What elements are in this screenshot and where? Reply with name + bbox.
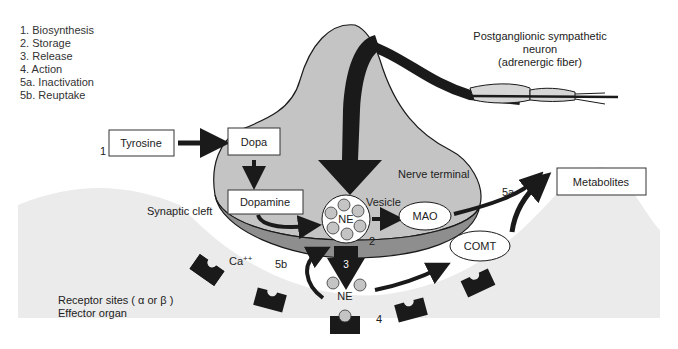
step-5b-label: 5b [275, 258, 287, 270]
step-4-label: 4 [376, 313, 382, 325]
effector-organ-label: Effector organ [58, 307, 127, 319]
dopa-label: Dopa [241, 136, 268, 148]
tyrosine-label: Tyrosine [120, 137, 162, 149]
ne-particle [354, 279, 366, 291]
metabolites-label: Metabolites [573, 176, 630, 188]
step-5a-label: 5a [502, 186, 515, 198]
ne-particle [327, 277, 339, 289]
receptor-sites-label: Receptor sites ( α or β ) [58, 294, 173, 306]
mao-label: MAO [412, 210, 438, 222]
neuron-label-line3: (adrenergic fiber) [498, 56, 582, 68]
comt-label: COMT [464, 240, 497, 252]
vesicle-ne-label: NE [338, 213, 353, 225]
synaptic-cleft-label: Synaptic cleft [147, 205, 212, 217]
neuron-label-line1: Postganglionic sympathetic [473, 30, 607, 42]
step-2-label: 2 [369, 235, 375, 247]
step-3-label: 3 [343, 259, 349, 270]
vesicle: NE [322, 195, 370, 243]
released-ne-label: NE [337, 290, 352, 302]
nerve-terminal-label: Nerve terminal [398, 168, 470, 180]
neurotransmission-diagram: Postganglionic sympathetic neuron (adren… [0, 0, 678, 349]
vesicle-label: Vesicle [366, 196, 401, 208]
neuron-label-line2: neuron [523, 43, 557, 55]
step-1-label: 1 [100, 145, 106, 157]
dopamine-label: Dopamine [240, 196, 290, 208]
